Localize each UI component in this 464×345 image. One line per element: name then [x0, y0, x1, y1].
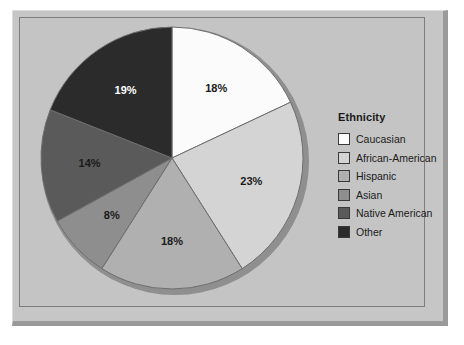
- legend-item: African-American: [338, 149, 458, 168]
- plot-area: 18%23%18%8%14%19% Ethnicity CaucasianAfr…: [19, 17, 425, 307]
- legend-title: Ethnicity: [338, 111, 458, 123]
- legend-item: Hispanic: [338, 167, 458, 186]
- legend-item-label: Native American: [356, 207, 432, 219]
- legend-item: Caucasian: [338, 130, 458, 149]
- legend: Ethnicity CaucasianAfrican-AmericanHispa…: [338, 111, 458, 241]
- legend-item-label: Asian: [356, 189, 382, 201]
- legend-swatch-icon: [338, 152, 350, 164]
- pie-chart: 18%23%18%8%14%19%: [38, 24, 310, 296]
- legend-item: Asian: [338, 186, 458, 205]
- legend-swatch-icon: [338, 133, 350, 145]
- legend-item-label: Caucasian: [356, 133, 406, 145]
- legend-swatch-icon: [338, 189, 350, 201]
- pie-slice-value-label: 18%: [161, 235, 183, 247]
- pie-slice-value-label: 23%: [240, 175, 262, 187]
- pie-slice-value-label: 8%: [104, 209, 120, 221]
- legend-item: Native American: [338, 204, 458, 223]
- legend-item: Other: [338, 223, 458, 242]
- pie-slice-value-label: 14%: [79, 157, 101, 169]
- pie-slice-value-label: 19%: [115, 84, 137, 96]
- legend-item-label: Other: [356, 226, 382, 238]
- legend-swatch-icon: [338, 170, 350, 182]
- legend-items: CaucasianAfrican-AmericanHispanicAsianNa…: [338, 130, 458, 241]
- pie-svg: 18%23%18%8%14%19%: [38, 24, 310, 296]
- legend-swatch-icon: [338, 226, 350, 238]
- pie-slice-value-label: 18%: [205, 82, 227, 94]
- legend-item-label: African-American: [356, 152, 437, 164]
- chart-frame: 18%23%18%8%14%19% Ethnicity CaucasianAfr…: [12, 10, 448, 326]
- legend-item-label: Hispanic: [356, 170, 396, 182]
- legend-swatch-icon: [338, 207, 350, 219]
